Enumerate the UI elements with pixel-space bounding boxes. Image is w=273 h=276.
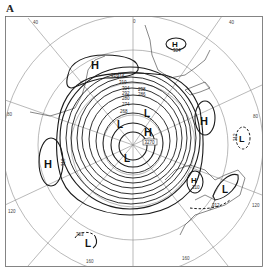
svg-text:160: 160 — [86, 259, 94, 264]
contour-labels: 316 310 304 298 292 286 280 274 268 — [117, 74, 146, 114]
low-center: L — [239, 134, 245, 144]
low-center: L — [144, 108, 150, 119]
low-center: L — [124, 153, 130, 164]
svg-text:120: 120 — [8, 209, 16, 214]
weather-map: 40 0 40 80 80 120 120 160 160 — [0, 0, 273, 276]
high-center: H — [144, 126, 152, 138]
low-center: L — [222, 184, 228, 195]
high-center: H — [191, 176, 197, 185]
svg-text:120: 120 — [252, 203, 260, 208]
svg-text:3270: 3270 — [145, 140, 156, 145]
svg-text:303: 303 — [76, 232, 84, 237]
svg-text:268: 268 — [120, 109, 128, 114]
svg-text:304: 304 — [173, 48, 181, 53]
low-center: L — [117, 119, 123, 130]
pressure-centers: H 316 H 304 H H 316 L 312 L L L H 3270 L… — [44, 40, 245, 249]
svg-text:312: 312 — [233, 133, 238, 141]
svg-text:40: 40 — [229, 20, 235, 25]
high-center: H — [44, 158, 52, 170]
low-center: L — [85, 238, 91, 249]
svg-text:0: 0 — [133, 19, 136, 24]
high-center: H — [91, 59, 99, 71]
svg-text:286: 286 — [138, 92, 146, 97]
svg-text:310: 310 — [192, 185, 200, 190]
svg-text:40: 40 — [33, 20, 39, 25]
svg-text:274: 274 — [122, 102, 130, 107]
high-center: H — [200, 115, 208, 127]
svg-text:316: 316 — [111, 73, 119, 78]
svg-text:160: 160 — [182, 256, 190, 261]
svg-text:80: 80 — [7, 112, 13, 117]
svg-text:312: 312 — [212, 203, 220, 208]
svg-text:310: 310 — [119, 80, 127, 85]
svg-text:280: 280 — [122, 96, 130, 101]
svg-text:316: 316 — [61, 158, 66, 166]
svg-text:80: 80 — [253, 114, 259, 119]
